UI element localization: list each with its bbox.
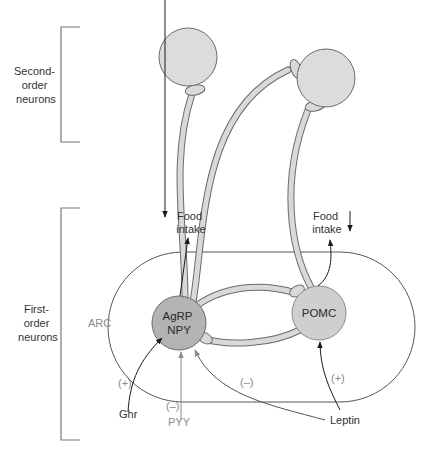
pomc-label: POMC	[302, 307, 337, 319]
neuron-circuit-diagram: Second- order neurons First- order neuro…	[0, 0, 429, 453]
first-order-bracket	[61, 208, 80, 440]
food-intake-right-label: Food intake	[312, 210, 341, 235]
ghrelin-sign: (+)	[118, 377, 132, 389]
second-order-bracket	[61, 27, 80, 142]
ghrelin-label: Ghr	[119, 408, 138, 420]
axons	[180, 70, 312, 343]
leptin-agrp-sign: (–)	[240, 376, 253, 388]
second-order-neuron-right	[297, 49, 355, 107]
first-order-label: First- order neurons	[18, 303, 58, 343]
second-order-neuron-left	[159, 28, 217, 86]
leptin-pomc-sign: (+)	[331, 372, 345, 384]
pyy-sign: (–)	[166, 400, 179, 412]
arc-label: ARC	[88, 317, 111, 329]
food-intake-left-label: Food intake	[176, 210, 205, 235]
second-order-label: Second- order neurons	[14, 65, 58, 105]
leptin-to-agrp-arrow	[195, 350, 325, 420]
agrp-npy-neuron	[152, 296, 206, 350]
pyy-label: PYY	[168, 416, 191, 428]
ghrelin-arrow	[128, 338, 162, 412]
pomc-output-arrow	[318, 240, 331, 286]
leptin-label: Leptin	[330, 414, 360, 426]
